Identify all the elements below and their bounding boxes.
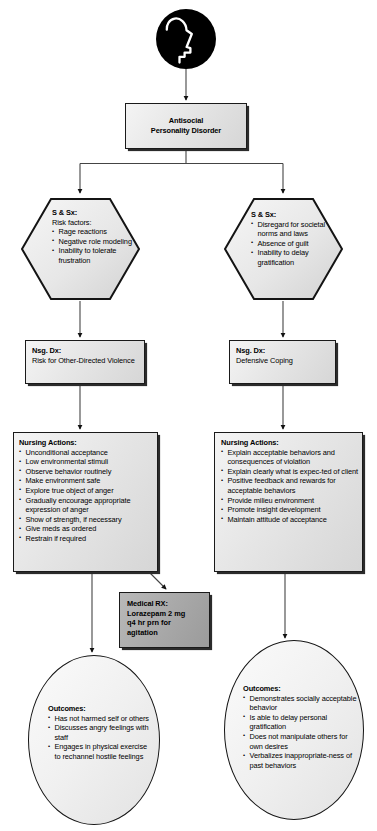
list-item: Has not harmed self or others <box>48 714 152 724</box>
rx-heading: Medical RX: <box>127 599 206 609</box>
list-item: Show of strength, if necessary <box>19 515 154 525</box>
list-item: Rage reactions <box>52 227 136 237</box>
head-profile-icon <box>155 8 217 70</box>
list-item: Low environmental stimuli <box>19 457 154 467</box>
hex-left-subheading: Risk factors: <box>52 218 136 228</box>
list-item: Gradually encourage appropriate expressi… <box>19 496 154 515</box>
list-item: Inability to delay gratification <box>251 248 339 267</box>
list-item: Provide milieu environment <box>221 496 359 506</box>
list-item: Give meds as ordered <box>19 524 154 534</box>
rx-line-1: Lorazepam 2 mg <box>127 609 206 619</box>
actions-right-items: Explain acceptable behaviors and consequ… <box>221 448 359 525</box>
list-item: Inability to tolerate frustration <box>52 246 136 265</box>
list-item: Unconditional acceptance <box>19 448 154 458</box>
signs-symptoms-hexagon-left: S & Sx: Risk factors: Rage reactions Neg… <box>18 196 143 302</box>
rx-line-3: agitation <box>127 628 206 638</box>
nursing-actions-box-left: Nursing Actions: Unconditional acceptanc… <box>13 432 158 572</box>
outcomes-left-text: Outcomes: Has not harmed self or others … <box>48 704 152 762</box>
root-title-line2: Personality Disorder <box>126 126 246 136</box>
list-item: Maintain attitude of acceptance <box>221 515 359 525</box>
list-item: Restrain if required <box>19 534 154 544</box>
medical-rx-box: Medical RX: Lorazepam 2 mg q4 hr prn for… <box>119 592 210 648</box>
actions-left-heading: Nursing Actions: <box>19 438 154 448</box>
list-item: Does not manipulate others for own desir… <box>243 732 358 751</box>
outcomes-left-heading: Outcomes: <box>48 704 152 714</box>
list-item: Promote insight development <box>221 505 359 515</box>
nsg-dx-right-heading: Nsg. Dx: <box>236 346 331 356</box>
list-item: Engages in physical exercise to rechanne… <box>48 742 152 761</box>
nsg-dx-right-text: Defensive Coping <box>236 356 331 366</box>
hex-right-items: Disregard for societal norms and laws Ab… <box>251 220 339 268</box>
list-item: Absence of guilt <box>251 239 339 249</box>
nursing-diagnosis-box-left: Nsg. Dx: Risk for Other-Directed Violenc… <box>25 340 145 384</box>
nursing-actions-box-right: Nursing Actions: Explain acceptable beha… <box>214 432 363 572</box>
list-item: Make environment safe <box>19 476 154 486</box>
nsg-dx-left-heading: Nsg. Dx: <box>32 346 140 356</box>
root-diagnosis-box: Antisocial Personality Disorder <box>125 103 247 149</box>
outcomes-right-items: Demonstrates socially acceptable behavio… <box>243 694 358 771</box>
hex-left-heading: S & Sx: <box>52 208 136 218</box>
list-item: Explain clearly what is expec-ted of cli… <box>221 467 359 477</box>
list-item: Negative role modeling <box>52 237 136 247</box>
list-item: Positive feedback and rewards for accept… <box>221 476 359 495</box>
list-item: Explore true object of anger <box>19 486 154 496</box>
rx-line-2: q4 hr prn for <box>127 618 206 628</box>
outcomes-left-items: Has not harmed self or others Discusses … <box>48 714 152 762</box>
list-item: Verbalizes inappropriate-ness of past be… <box>243 751 358 770</box>
hex-left-items: Rage reactions Negative role modeling In… <box>52 227 136 265</box>
outcomes-right-text: Outcomes: Demonstrates socially acceptab… <box>243 684 358 770</box>
actions-right-heading: Nursing Actions: <box>221 438 359 448</box>
list-item: Observe behavior routinely <box>19 467 154 477</box>
list-item: Is able to delay personal gratification <box>243 713 358 732</box>
hex-right-heading: S & Sx: <box>251 210 339 220</box>
list-item: Disregard for societal norms and laws <box>251 220 339 239</box>
actions-left-items: Unconditional acceptance Low environment… <box>19 448 154 544</box>
root-title-line1: Antisocial <box>126 116 246 126</box>
list-item: Demonstrates socially acceptable behavio… <box>243 694 358 713</box>
flowchart-canvas: Antisocial Personality Disorder S & Sx: … <box>0 0 377 831</box>
nsg-dx-left-text: Risk for Other-Directed Violence <box>32 356 140 366</box>
list-item: Discusses angry feelings with staff <box>48 723 152 742</box>
nursing-diagnosis-box-right: Nsg. Dx: Defensive Coping <box>229 340 336 384</box>
signs-symptoms-hexagon-right: S & Sx: Disregard for societal norms and… <box>221 196 346 302</box>
outcomes-right-heading: Outcomes: <box>243 684 358 694</box>
list-item: Explain acceptable behaviors and consequ… <box>221 448 359 467</box>
